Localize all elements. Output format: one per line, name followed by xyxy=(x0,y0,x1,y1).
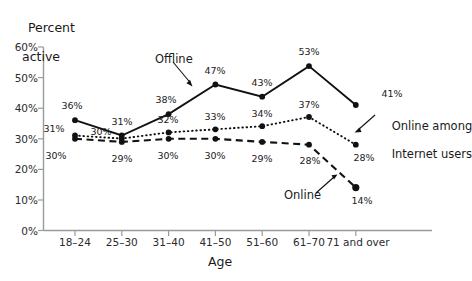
data-label-online-6: 14% xyxy=(352,195,373,206)
x-tick-label-71-and-over: 71 and over xyxy=(326,236,389,248)
data-label-offline-3: 47% xyxy=(205,65,226,76)
offline-arrowhead xyxy=(187,80,193,87)
x-tick-label-51-60: 51–60 xyxy=(246,236,278,248)
data-label-online-among-6: 28% xyxy=(354,152,375,163)
data-label-offline-0: 36% xyxy=(62,100,83,111)
y-tick-label-50: 50% xyxy=(6,72,38,84)
data-label-offline-6: 41% xyxy=(382,88,403,99)
data-label-offline-4: 43% xyxy=(252,77,273,88)
data-label-online-3: 30% xyxy=(205,150,226,161)
online-among-arrow-line xyxy=(358,115,375,130)
data-label-online-among-2: 32% xyxy=(158,114,179,125)
series-annotation-offline: Offline xyxy=(155,52,193,66)
data-label-online-among-3: 33% xyxy=(205,111,226,122)
x-tick-label-25-30: 25–30 xyxy=(106,236,138,248)
series-annotation-online: Online xyxy=(284,188,321,202)
y-tick-label-0: 0% xyxy=(6,225,38,237)
data-label-online-among-5: 37% xyxy=(299,99,320,110)
y-tick-label-30: 30% xyxy=(6,133,38,145)
series-annotation-online-among-line1: Online among xyxy=(392,119,472,133)
y-tick-label-20: 20% xyxy=(6,163,38,175)
y-axis-title-line1: Percent xyxy=(28,20,75,35)
data-label-online-0: 30% xyxy=(46,150,67,161)
data-label-online-among-0: 31% xyxy=(44,123,65,134)
x-axis-title: Age xyxy=(0,255,440,270)
series-annotation-online-among-internet-users: Online among Internet users xyxy=(377,105,472,175)
data-label-online-4: 29% xyxy=(252,153,273,164)
data-label-offline-2: 38% xyxy=(156,94,177,105)
data-label-online-2: 30% xyxy=(158,150,179,161)
data-label-online-1: 29% xyxy=(112,153,133,164)
data-label-online-among-1: 30% xyxy=(91,126,112,137)
data-label-offline-5: 53% xyxy=(299,46,320,57)
y-tick-label-10: 10% xyxy=(6,194,38,206)
x-tick-label-61-70: 61–70 xyxy=(293,236,325,248)
x-tick-label-41-50: 41–50 xyxy=(199,236,231,248)
annotation-arrows xyxy=(173,62,375,193)
y-tick-label-40: 40% xyxy=(6,102,38,114)
y-tick-label-60: 60% xyxy=(6,41,38,53)
data-label-online-among-4: 34% xyxy=(252,108,273,119)
data-label-offline-1: 31% xyxy=(112,116,133,127)
x-tick-label-31-40: 31–40 xyxy=(153,236,185,248)
x-tick-label-18-24: 18–24 xyxy=(59,236,91,248)
series-annotation-online-among-line2: Internet users xyxy=(392,147,472,161)
data-label-online-5: 28% xyxy=(300,155,321,166)
